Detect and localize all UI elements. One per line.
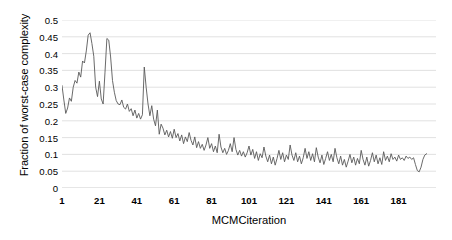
y-axis-tick-label: 0.35 (24, 65, 58, 76)
y-axis-tick-label: 0.25 (24, 99, 58, 110)
y-axis-tick-label: 0.4 (24, 48, 58, 59)
x-axis-tick-label: 161 (353, 195, 369, 206)
y-axis-tick-label: 0.45 (24, 31, 58, 42)
x-axis-tick-label: 181 (391, 195, 407, 206)
x-axis-tick-label: 121 (278, 195, 294, 206)
y-axis-tick-label: 0.1 (24, 149, 58, 160)
x-axis-label: MCMCiteration (62, 214, 436, 226)
x-axis-tick-label: 1 (59, 195, 64, 206)
x-axis-tick-label: 141 (316, 195, 332, 206)
y-axis-tick-label: 0.2 (24, 115, 58, 126)
x-axis-tick-label: 41 (131, 195, 142, 206)
x-axis-tick-labels: 121416181101121141161181 (0, 195, 452, 211)
y-axis-tick-label: 0 (24, 183, 58, 194)
y-axis-tick-label: 0.15 (24, 132, 58, 143)
x-axis-tick-label: 81 (206, 195, 217, 206)
x-axis-tick-label: 101 (241, 195, 257, 206)
chart-svg (62, 20, 436, 188)
y-axis-tick-label: 0.5 (24, 15, 58, 26)
x-axis-tick-label: 61 (169, 195, 180, 206)
y-axis-tick-label: 0.3 (24, 82, 58, 93)
plot-area (62, 20, 436, 188)
x-axis-tick-label: 21 (94, 195, 105, 206)
y-axis-tick-label: 0.05 (24, 166, 58, 177)
chart-figure: Fraction of worst-case complexity 0.50.4… (0, 0, 452, 240)
